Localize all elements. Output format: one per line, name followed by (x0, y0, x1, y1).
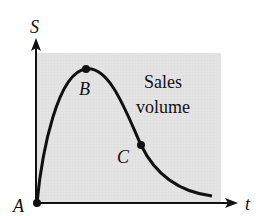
point-b (82, 65, 90, 73)
y-axis-label: S (30, 17, 39, 37)
point-c-label: C (117, 147, 130, 167)
point-c (137, 141, 145, 149)
point-b-label: B (79, 79, 90, 99)
point-a (33, 199, 41, 207)
point-a-label: A (12, 196, 25, 216)
sales-volume-diagram: S t A B C Sales volume (0, 0, 256, 216)
x-axis-label: t (245, 194, 251, 214)
plot-panel (37, 53, 221, 202)
annotation-line-2: volume (136, 97, 190, 117)
annotation-line-1: Sales (144, 72, 182, 92)
